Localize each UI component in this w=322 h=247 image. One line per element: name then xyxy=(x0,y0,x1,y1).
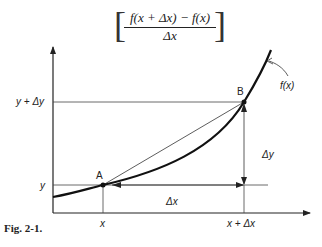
function-curve xyxy=(53,50,271,197)
delta-x-label: Δx xyxy=(165,196,179,207)
y-tick-label: y xyxy=(39,180,46,191)
x-plus-dx-tick-label: x + Δx xyxy=(226,218,256,229)
secant-line xyxy=(103,102,244,185)
point-b xyxy=(242,100,247,105)
curve-label: f(x) xyxy=(280,80,294,91)
delta-y-label: Δy xyxy=(261,149,275,160)
y-plus-dy-tick-label: y + Δy xyxy=(15,96,45,107)
point-a-label: A xyxy=(96,170,103,181)
point-a xyxy=(101,183,106,188)
x-tick-label: x xyxy=(99,218,106,229)
secant-diagram: f(x) A B y + Δy y x x + Δx Δx Δy xyxy=(0,0,322,247)
figure-caption: Fig. 2-1. xyxy=(4,222,42,234)
point-b-label: B xyxy=(237,86,244,97)
